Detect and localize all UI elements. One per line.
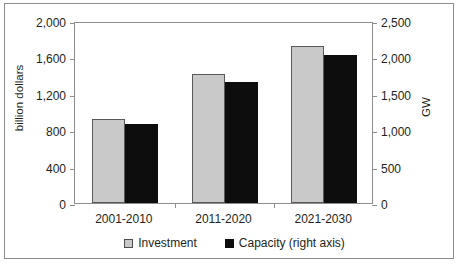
chart-figure: billion dollars GW 04008001,2001,6002,00… <box>0 0 459 264</box>
y-tick-label-right: 500 <box>381 162 401 176</box>
y-tick-right <box>372 169 377 170</box>
y-tick-left <box>70 205 75 206</box>
y-tick-right <box>372 132 377 133</box>
y-tick-label-right: 2,000 <box>381 52 411 66</box>
y-tick-label-right: 1,500 <box>381 89 411 103</box>
legend-label: Investment <box>138 236 197 250</box>
y-tick-left <box>70 59 75 60</box>
legend-item: Capacity (right axis) <box>225 236 345 250</box>
legend-swatch-investment <box>124 239 133 248</box>
bar-capacity <box>324 55 357 203</box>
x-tick-label: 2021-2030 <box>294 212 351 226</box>
y-tick-left <box>70 132 75 133</box>
bar-investment <box>92 119 125 203</box>
bar-capacity <box>225 82 258 203</box>
y-tick-left <box>70 169 75 170</box>
x-tick <box>274 203 275 208</box>
y-tick-left <box>70 23 75 24</box>
y-tick-right <box>372 96 377 97</box>
bar-investment <box>192 74 225 203</box>
y-tick-label-right: 0 <box>381 198 388 212</box>
y-tick-right <box>372 23 377 24</box>
y-tick-left <box>70 96 75 97</box>
y-tick-label-left: 800 <box>46 125 66 139</box>
x-tick <box>175 203 176 208</box>
x-tick-label: 2001-2010 <box>95 212 152 226</box>
y-tick-label-left: 2,000 <box>36 16 66 30</box>
y-axis-right-title: GW <box>420 77 432 137</box>
y-axis-left-title: billion dollars <box>13 38 25 158</box>
y-tick-label-left: 0 <box>59 198 66 212</box>
legend-label: Capacity (right axis) <box>239 236 345 250</box>
x-tick-label: 2011-2020 <box>195 212 252 226</box>
legend-item: Investment <box>124 236 197 250</box>
y-tick-label-right: 2,500 <box>381 16 411 30</box>
plot-area: 04008001,2001,6002,000 05001,0001,5002,0… <box>74 22 373 204</box>
y-tick-label-right: 1,000 <box>381 125 411 139</box>
chart-legend: InvestmentCapacity (right axis) <box>5 236 459 250</box>
y-tick-right <box>372 59 377 60</box>
bar-investment <box>291 46 324 203</box>
y-tick-label-left: 400 <box>46 162 66 176</box>
y-tick-right <box>372 205 377 206</box>
legend-swatch-capacity <box>225 239 234 248</box>
figure-frame: billion dollars GW 04008001,2001,6002,00… <box>4 3 454 259</box>
y-tick-label-left: 1,600 <box>36 52 66 66</box>
y-tick-label-left: 1,200 <box>36 89 66 103</box>
bar-capacity <box>125 124 158 203</box>
